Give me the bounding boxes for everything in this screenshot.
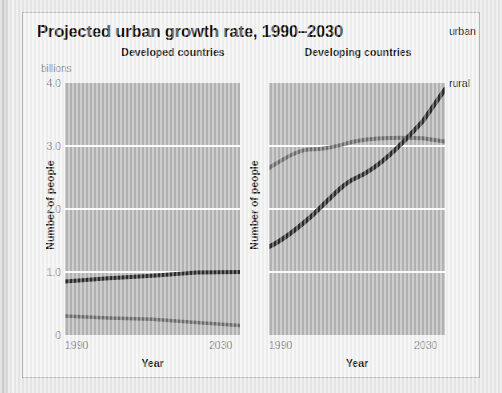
y-tick-1: 1.0: [46, 266, 61, 278]
y-axis-units-label: billions: [41, 63, 72, 74]
page-left-edge-shadow: [0, 0, 14, 393]
x-axis-title-developing: Year: [269, 357, 445, 369]
y-axis-title-developed: Number of people: [44, 150, 56, 260]
plot-area-developing: [269, 83, 445, 335]
series-line-urban-developing: [269, 89, 445, 247]
figure-title: Projected urban growth rate, 1990–2030: [37, 22, 343, 41]
y-axis-title-developing: Number of people: [248, 150, 260, 260]
y-tick-0: 0: [55, 329, 61, 341]
x-tick-1990-developed: 1990: [65, 339, 88, 351]
series-line-urban-developed: [65, 272, 240, 282]
x-tick-1990-developing: 1990: [269, 339, 292, 351]
gridlines-developed: [65, 146, 240, 272]
panel-heading-developing: Developing countries: [268, 46, 448, 58]
plot-area-developed: [65, 83, 240, 335]
series-line-rural-developing: [269, 138, 445, 168]
x-axis-title-developed: Year: [65, 357, 240, 369]
figure-container: Projected urban growth rate, 1990–2030 D…: [22, 12, 480, 378]
panel-heading-developed: Developed countries: [83, 46, 263, 58]
chart-svg-developing: [269, 83, 445, 335]
series-label-urban: urban: [449, 25, 476, 37]
x-tick-2030-developing: 2030: [414, 339, 437, 351]
gridlines-developing: [269, 146, 445, 272]
y-tick-4: 4.0: [46, 77, 61, 89]
x-tick-2030-developed: 2030: [209, 339, 232, 351]
chart-svg-developed: [65, 83, 240, 335]
series-line-rural-developed: [65, 316, 240, 326]
series-label-rural: rural: [449, 77, 470, 89]
